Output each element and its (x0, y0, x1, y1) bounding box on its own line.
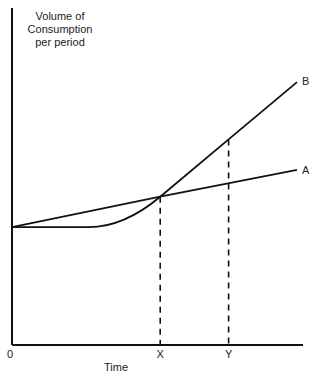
origin-label: 0 (7, 348, 13, 360)
y-axis-label-line-3: per period (35, 36, 85, 48)
x-tick-label-y: Y (225, 348, 233, 360)
y-axis-label-line-1: Volume of (36, 10, 86, 22)
x-tick-label-x: X (157, 348, 165, 360)
x-axis-label: Time (104, 361, 128, 373)
chart: Volume of Consumption per period 0 Time … (0, 0, 315, 377)
y-axis-label-line-2: Consumption (28, 23, 93, 35)
series-a-line (12, 170, 297, 227)
series-b-line (12, 82, 297, 227)
series-label-a: A (302, 164, 310, 176)
series-label-b: B (302, 75, 309, 87)
